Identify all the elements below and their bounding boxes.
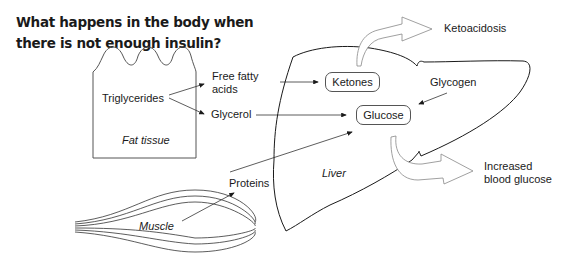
- liver-shape: [273, 46, 530, 231]
- ketones-box: Ketones: [325, 72, 380, 92]
- ketoacidosis-label: Ketoacidosis: [444, 22, 506, 35]
- free-fatty-acids-line1: Free fatty: [212, 70, 258, 83]
- glycogen-label: Glycogen: [430, 76, 476, 89]
- proteins-label: Proteins: [229, 177, 269, 190]
- arrow-proteins-to-glucose: [230, 132, 352, 172]
- free-fatty-acids-line2: acids: [212, 83, 258, 96]
- increased-blood-glucose-line1: Increased: [484, 160, 552, 173]
- arrow-glycogen-to-glucose: [419, 93, 447, 104]
- ketoacidosis-arrow: [357, 17, 432, 66]
- liver-label: Liver: [322, 167, 346, 180]
- glucose-box: Glucose: [356, 105, 411, 125]
- muscle-label: Muscle: [139, 220, 174, 233]
- diagram-canvas: [0, 0, 568, 261]
- increased-blood-glucose-line2: blood glucose: [484, 173, 552, 186]
- arrow-to-free-fatty-acids: [169, 84, 204, 95]
- blood-glucose-arrow: [391, 136, 473, 184]
- increased-blood-glucose-label: Increased blood glucose: [484, 160, 552, 186]
- arrow-to-glycerol: [169, 98, 204, 114]
- glycerol-label: Glycerol: [211, 108, 251, 121]
- triglycerides-label: Triglycerides: [102, 92, 164, 105]
- fat-tissue-label: Fat tissue: [122, 134, 170, 147]
- free-fatty-acids-label: Free fatty acids: [212, 70, 258, 96]
